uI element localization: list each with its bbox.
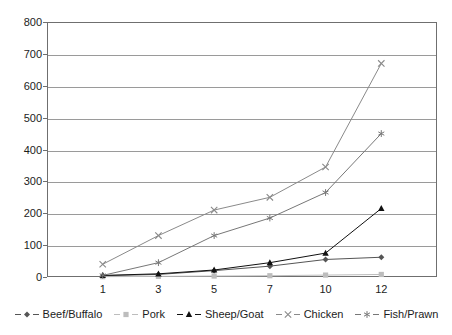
legend-item[interactable]: Fish/Prawn: [354, 309, 438, 320]
legend-item[interactable]: Sheep/Goat: [176, 309, 264, 320]
series-layer: [47, 22, 437, 277]
series-chicken: [100, 60, 385, 267]
y-tick-label: 800: [24, 16, 42, 28]
data-point: [100, 261, 106, 267]
y-tick-mark: [43, 277, 47, 278]
data-point: [378, 205, 384, 211]
data-point: [322, 250, 328, 256]
x-tick-label: 7: [267, 283, 273, 295]
line-chart: 0100200300400500600700800 13571012 Beef/…: [0, 0, 452, 335]
data-point: [211, 232, 217, 239]
legend-label: Sheep/Goat: [205, 309, 264, 320]
data-point: [378, 254, 384, 260]
data-point: [323, 272, 328, 277]
x-tick-label: 10: [319, 283, 331, 295]
series-line: [103, 134, 382, 276]
series-fish-prawn: [100, 130, 385, 279]
legend-marker-star-icon: [354, 309, 380, 320]
y-tick-label: 300: [24, 175, 42, 187]
x-tick-label: 3: [155, 283, 161, 295]
legend-label: Fish/Prawn: [383, 309, 438, 320]
data-point: [267, 215, 273, 222]
legend-label: Chicken: [304, 309, 344, 320]
data-point: [378, 60, 384, 66]
legend-item[interactable]: Chicken: [275, 309, 344, 320]
series-sheep-goat: [100, 205, 385, 278]
y-tick-label: 600: [24, 80, 42, 92]
series-line: [103, 63, 382, 264]
data-point: [322, 164, 328, 170]
data-point: [379, 272, 384, 277]
chart-legend: Beef/BuffaloPorkSheep/GoatChickenFish/Pr…: [0, 309, 452, 320]
legend-label: Beef/Buffalo: [43, 309, 103, 320]
y-axis: 0100200300400500600700800: [0, 0, 47, 300]
x-tick-label: 1: [100, 283, 106, 295]
legend-label: Pork: [142, 309, 165, 320]
y-tick-label: 100: [24, 239, 42, 251]
legend-marker-diamond-icon: [14, 309, 40, 320]
data-point: [267, 273, 272, 278]
legend-item[interactable]: Beef/Buffalo: [14, 309, 103, 320]
y-tick-label: 0: [36, 271, 42, 283]
legend-marker-x-icon: [275, 309, 301, 320]
y-tick-label: 400: [24, 144, 42, 156]
legend-item[interactable]: Pork: [113, 309, 165, 320]
legend-marker-triangle-icon: [176, 309, 202, 320]
series-pork: [100, 272, 384, 279]
x-tick-label: 5: [211, 283, 217, 295]
data-point: [323, 256, 329, 262]
y-tick-label: 200: [24, 207, 42, 219]
data-point: [212, 273, 217, 278]
x-tick-label: 12: [375, 283, 387, 295]
data-point: [155, 232, 161, 238]
y-tick-label: 700: [24, 48, 42, 60]
y-tick-label: 500: [24, 112, 42, 124]
legend-marker-square-icon: [113, 309, 139, 320]
